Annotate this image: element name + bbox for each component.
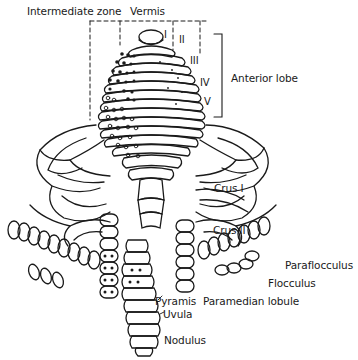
- anterior-lobe-bracket: [214, 34, 222, 117]
- label-crus-ii: Crus II: [213, 225, 246, 236]
- hemisphere-folia: [30, 125, 276, 226]
- paramedian-lobule-right: [176, 220, 194, 292]
- flocculus-left: [27, 263, 66, 289]
- label-paramedian-lobule: Paramedian lobule: [203, 296, 299, 307]
- label-lobule-v: V: [204, 97, 211, 107]
- flocculus-right: [215, 251, 259, 275]
- label-nodulus: Nodulus: [164, 335, 206, 346]
- crus-folia: [64, 189, 248, 246]
- label-paraflocculus: Paraflocculus: [285, 260, 353, 271]
- label-lobule-iii: III: [190, 56, 199, 66]
- label-vermis: Vermis: [130, 6, 165, 17]
- label-lobule-i: I: [164, 30, 167, 40]
- label-uvula: Uvula: [163, 309, 192, 320]
- label-crus-i: Crus I: [214, 183, 244, 194]
- cerebellum-diagram: Intermediate zone Vermis I II III IV V A…: [0, 0, 358, 360]
- posterior-vermis: [138, 178, 164, 228]
- paramedian-lobule-left: [100, 214, 118, 298]
- label-flocculus: Flocculus: [268, 278, 316, 289]
- label-lobule-ii: II: [179, 35, 185, 45]
- label-pyramis: Pyramis: [155, 296, 196, 307]
- anterior-lobe-folia: [98, 46, 205, 180]
- label-lobule-iv: IV: [200, 78, 210, 88]
- label-intermediate-zone: Intermediate zone: [27, 6, 121, 17]
- label-anterior-lobe: Anterior lobe: [231, 73, 298, 84]
- paraflocculus-left: [8, 221, 100, 269]
